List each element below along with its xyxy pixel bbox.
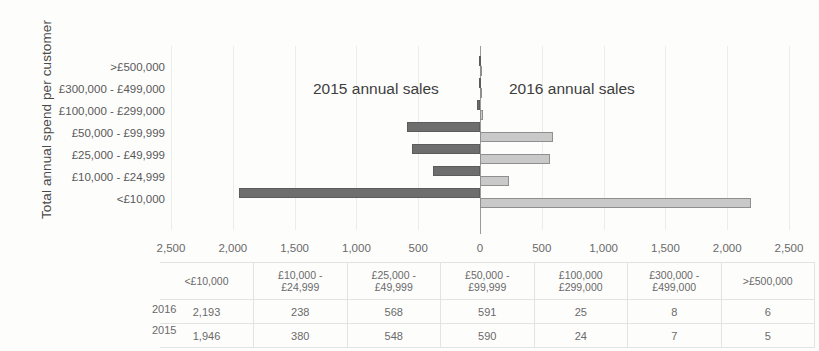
table-cell: 238 [254,300,348,324]
table-row: 1,9463805485902475 [160,324,815,348]
table-header-cell: £100,000£299,000 [534,263,628,300]
table-cell: 380 [254,324,348,348]
table-cell: 590 [441,324,535,348]
category-axis-label: £10,000 - £24,999 [0,166,165,188]
table-cell: 7 [628,324,722,348]
table-cell: 1,946 [160,324,254,348]
bar-2015[interactable] [479,56,481,66]
category-axis-label: £50,000 - £99,999 [0,122,165,144]
x-axis-tick-label: 500 [388,242,448,254]
bar-2015[interactable] [412,144,480,154]
plot-area: >£500,000£300,000 - £499,000£100,000 - £… [0,46,819,236]
category-row: £25,000 - £49,999 [0,144,819,166]
x-axis-tick-label: 2,500 [141,242,201,254]
bar-2016[interactable] [480,176,509,186]
category-axis-label: <£10,000 [0,188,165,210]
x-axis-tick-label: 0 [450,242,510,254]
bar-2015[interactable] [433,166,480,176]
bar-2016[interactable] [480,88,482,98]
table-header-cell: £10,000 -£24,999 [254,263,348,300]
category-axis-label: £100,000 - £299,000 [0,100,165,122]
bar-2016[interactable] [480,198,751,208]
x-axis-tick-label: 500 [512,242,572,254]
x-axis-tick-label: 2,500 [759,242,819,254]
table-header-cell: £25,000 -£49,999 [347,263,441,300]
table-header-cell: <£10,000 [160,263,254,300]
category-axis-label: £25,000 - £49,999 [0,144,165,166]
bar-2016[interactable] [480,154,550,164]
legend-label-2015: 2015 annual sales [313,80,439,98]
table-cell: 24 [534,324,628,348]
table-cell: 568 [347,300,441,324]
table-header-cell: >£500,000 [721,263,815,300]
x-axis-tick-label: 1,000 [326,242,386,254]
x-axis-tick-label: 2,000 [203,242,263,254]
bar-2015[interactable] [477,100,480,110]
x-axis-tick-label: 2,000 [697,242,757,254]
x-axis-tick-label: 1,500 [635,242,695,254]
table-row: 2,1932385685912586 [160,300,815,324]
x-axis-tick-label: 1,500 [265,242,325,254]
table-cell: 6 [721,300,815,324]
x-axis-ticks: 2,5002,0001,5001,00050005001,0001,5002,0… [0,242,819,258]
table-header-row: <£10,000£10,000 -£24,999£25,000 -£49,999… [160,263,815,300]
bar-2016[interactable] [480,110,483,120]
category-row: £50,000 - £99,999 [0,122,819,144]
table-cell: 25 [534,300,628,324]
category-row: <£10,000 [0,188,819,210]
category-axis-label: £300,000 - £499,000 [0,78,165,100]
data-table: <£10,000£10,000 -£24,999£25,000 -£49,999… [160,262,815,348]
category-row: >£500,000 [0,56,819,78]
category-row: £100,000 - £299,000 [0,100,819,122]
table-cell: 591 [441,300,535,324]
bar-2015[interactable] [239,188,480,198]
bar-2015[interactable] [479,78,481,88]
table-cell: 8 [628,300,722,324]
table-cell: 2,193 [160,300,254,324]
table-header-cell: £50,000 -£99,999 [441,263,535,300]
legend-label-2016: 2016 annual sales [509,80,635,98]
table-header-cell: £300,000 -£499,000 [628,263,722,300]
category-axis-label: >£500,000 [0,56,165,78]
bar-2016[interactable] [480,66,482,76]
bar-2015[interactable] [407,122,480,132]
table-cell: 5 [721,324,815,348]
category-row: £10,000 - £24,999 [0,166,819,188]
x-axis-tick-label: 1,000 [574,242,634,254]
table-cell: 548 [347,324,441,348]
bar-2016[interactable] [480,132,553,142]
chart-page: Total annual spend per customer >£500,00… [0,0,819,351]
